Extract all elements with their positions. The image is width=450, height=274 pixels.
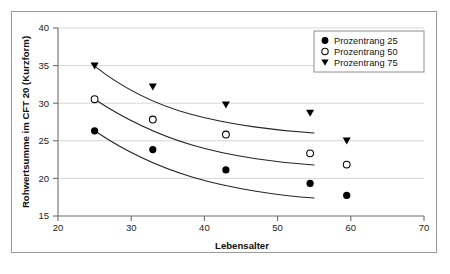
data-point (149, 146, 156, 153)
data-point (149, 116, 156, 123)
y-tick-label: 35 (38, 60, 49, 71)
x-tick-label: 20 (53, 222, 64, 233)
x-tick-label: 70 (419, 222, 430, 233)
data-point (343, 192, 350, 199)
x-tick-label: 30 (126, 222, 137, 233)
x-tick-label: 60 (346, 222, 357, 233)
data-point (307, 180, 314, 187)
data-series-prozentrang-25 (91, 127, 350, 199)
data-point (91, 127, 98, 134)
x-axis-ticks (58, 216, 424, 221)
trend-curve-prozentrang-75 (95, 66, 314, 133)
data-point (91, 96, 98, 103)
y-tick-label: 30 (38, 98, 49, 109)
data-point (306, 110, 314, 117)
chart-legend: Prozentrang 25 Prozentrang 50 Prozentran… (314, 31, 424, 72)
x-tick-label: 50 (272, 222, 283, 233)
y-axis-ticks (53, 28, 58, 216)
legend-marker-open-circle (322, 48, 328, 54)
y-tick-label: 40 (38, 22, 49, 33)
x-tick-labels: 20 30 40 50 60 70 (53, 222, 430, 233)
y-tick-label: 25 (38, 135, 49, 146)
x-axis-title: Lebensalter (215, 240, 269, 251)
legend-label-prozentrang-75: Prozentrang 75 (334, 58, 398, 68)
x-tick-label: 40 (199, 222, 210, 233)
data-point (223, 131, 230, 138)
data-point (222, 166, 229, 173)
data-point (343, 161, 350, 168)
y-tick-labels: 15 20 25 30 35 40 (38, 22, 49, 221)
legend-label-prozentrang-25: Prozentrang 25 (334, 36, 398, 46)
y-axis-title: Rohwertsumme im CFT 20 (Kurzform) (20, 36, 31, 208)
legend-label-prozentrang-50: Prozentrang 50 (334, 47, 398, 57)
chart-figure: 15 20 25 30 35 40 20 30 40 50 60 70 Lebe… (0, 0, 450, 274)
trend-curve-prozentrang-50 (95, 99, 314, 165)
y-tick-label: 20 (38, 173, 49, 184)
y-tick-label: 15 (38, 210, 49, 221)
data-series-prozentrang-50 (91, 96, 350, 168)
chart-canvas: 15 20 25 30 35 40 20 30 40 50 60 70 Lebe… (0, 0, 450, 274)
legend-marker-filled-circle (322, 37, 329, 44)
data-point (149, 84, 157, 91)
data-point (222, 102, 230, 109)
data-point (307, 150, 314, 157)
